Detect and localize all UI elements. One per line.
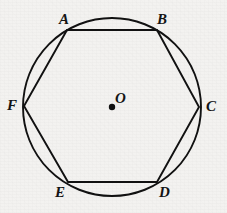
- vertex-label-d: D: [159, 185, 170, 200]
- vertex-label-e: E: [55, 185, 65, 200]
- geometry-figure: O A B C D E F: [0, 0, 227, 213]
- geometry-canvas: [0, 0, 227, 213]
- vertex-label-f: F: [7, 98, 17, 113]
- vertex-label-c: C: [206, 99, 216, 114]
- vertex-label-b: B: [157, 12, 167, 27]
- vertex-label-a: A: [59, 12, 69, 27]
- center-label-o: O: [115, 91, 126, 106]
